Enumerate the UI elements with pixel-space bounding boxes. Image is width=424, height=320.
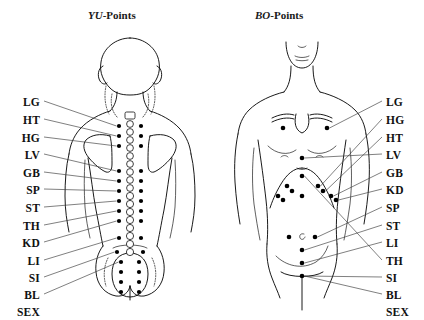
bo-point-14 [313,235,318,240]
yu-label-th: TH [0,220,40,232]
bo-point-16 [300,261,305,266]
yu-point-right-9 [139,236,143,240]
bo-point-7 [321,189,326,194]
yu-point-left-3 [117,169,121,173]
yu-leader-gb [44,172,117,181]
anatomy-artwork [0,0,424,320]
yu-point-right-6 [139,199,143,203]
left-leader-lines [44,101,119,294]
yu-sacral-left-0 [119,260,123,264]
yu-point-right-7 [139,209,143,213]
yu-point-left-4 [117,179,121,183]
yu-label-st: ST [0,202,40,214]
yu-leader-hg [44,137,117,146]
bo-point-5 [316,184,321,189]
bo-label-lv: LV [386,149,401,161]
bo-label-li: LI [386,237,399,249]
yu-point-left-1 [117,134,121,138]
yu-point-left-9 [117,236,121,240]
right-leader-lines [305,101,383,294]
yu-sacral-left-3 [119,290,123,294]
bo-point-3 [300,174,305,179]
yu-leader-st [44,201,117,207]
bo-label-sp: SP [386,202,400,214]
yu-leader-sp [44,189,117,191]
bo-point-4 [285,184,290,189]
bo-label-th: TH [386,255,403,267]
bo-leader-lg [330,101,383,128]
bo-point-8 [276,194,281,199]
yu-point-left-8 [117,219,121,223]
yu-label-hg: HG [0,132,40,144]
yu-point-right-1 [139,134,143,138]
yu-sacral-left-2 [119,280,123,284]
bo-label-gb: GB [386,167,403,179]
yu-leader-li [44,238,117,260]
yu-sacral-left-1 [119,270,123,274]
yu-point-left-2 [117,144,121,148]
yu-sacral-right-2 [137,280,141,284]
spine-column [125,112,135,256]
yu-label-ht: HT [0,114,40,126]
yu-label-gb: GB [0,167,40,179]
bo-leader-sp [318,207,383,237]
bo-label-sex: SEX [386,306,409,318]
anatomy-figure-root: YU-Points BO-Points [0,0,424,320]
bo-label-kd: KD [386,184,404,196]
bo-point-13 [287,235,292,240]
yu-label-li: LI [0,255,40,267]
bo-point-1 [325,126,330,131]
bo-point-12 [300,194,305,199]
bo-point-11 [334,198,339,203]
yu-label-lv: LV [0,149,40,161]
yu-label-sp: SP [0,184,40,196]
yu-point-right-3 [139,169,143,173]
yu-label-sex: SEX [0,306,40,318]
yu-leader-kd [44,221,117,242]
yu-point-left-0 [117,124,121,128]
yu-point-left-6 [117,199,121,203]
yu-label-lg: LG [0,96,40,108]
bo-point-9 [329,194,334,199]
yu-label-bl: BL [0,289,40,301]
bo-point-6 [290,189,295,194]
bo-label-si: SI [386,272,397,284]
yu-sacral-right-1 [137,270,141,274]
bo-point-10 [281,198,286,203]
yu-sacral-right-0 [137,260,141,264]
bo-point-17 [300,274,305,279]
bo-label-ht: HT [386,132,403,144]
bo-leader-bl [305,276,383,294]
yu-leader-lv [44,154,117,171]
yu-point-right-5 [139,189,143,193]
bo-leader-ht [326,137,383,191]
bo-label-hg: HG [386,114,404,126]
yu-sacral-right-3 [137,290,141,294]
yu-point-right-2 [139,144,143,148]
yu-point-right-8 [139,219,143,223]
yu-point-left-10 [115,250,119,254]
yu-label-kd: KD [0,237,40,249]
yu-point-right-4 [139,179,143,183]
bo-point-15 [300,248,305,253]
yu-leader-ht [44,119,117,136]
yu-point-left-5 [117,189,121,193]
yu-point-right-10 [141,250,145,254]
yu-point-left-7 [117,209,121,213]
bo-label-st: ST [386,220,400,232]
bo-leader-th [305,176,383,260]
bo-point-0 [281,126,286,131]
yu-label-si: SI [0,272,40,284]
yu-point-right-0 [139,124,143,128]
yu-leader-th [44,211,117,225]
bo-leader-si [305,276,383,277]
yu-leader-bl [44,262,119,294]
bo-leader-li [305,242,383,263]
bo-label-bl: BL [386,289,402,301]
bo-label-lg: LG [386,96,403,108]
bo-point-2 [300,156,305,161]
